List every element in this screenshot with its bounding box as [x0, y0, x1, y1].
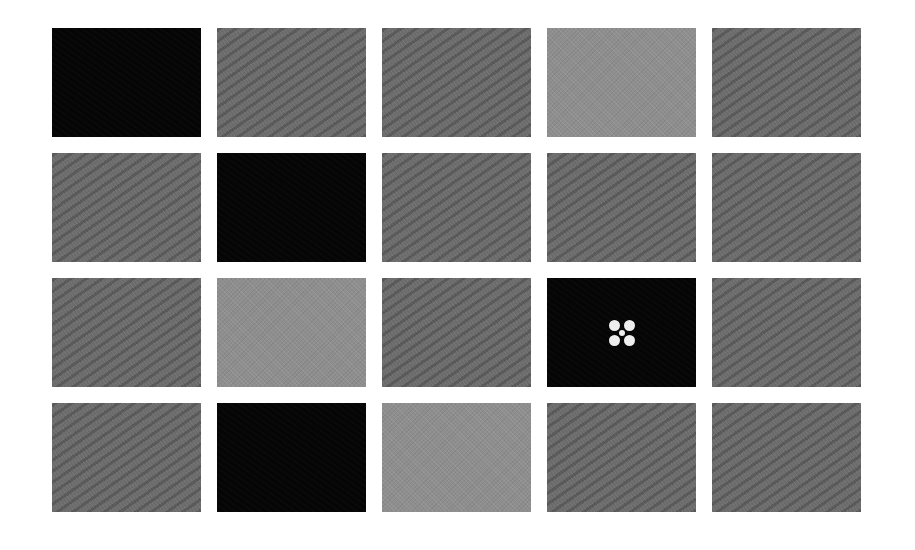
tile-r4-c4[interactable] [547, 403, 696, 512]
tile-r3-c3[interactable] [382, 278, 531, 387]
tile-r3-c5[interactable] [712, 278, 861, 387]
tile-r2-c4[interactable] [547, 153, 696, 262]
target-dot-bottom-right [624, 335, 635, 346]
target-dot-bottom-left [609, 335, 620, 346]
tile-r1-c1[interactable] [52, 28, 201, 137]
tile-r1-c3[interactable] [382, 28, 531, 137]
tile-r3-c1[interactable] [52, 278, 201, 387]
five-dot-target-icon [607, 318, 637, 348]
tile-r1-c2[interactable] [217, 28, 366, 137]
tile-r4-c2[interactable] [217, 403, 366, 512]
tile-r2-c5[interactable] [712, 153, 861, 262]
tile-r3-c4[interactable] [547, 278, 696, 387]
stimulus-grid [52, 28, 861, 512]
target-dot-center [619, 330, 625, 336]
tile-r1-c5[interactable] [712, 28, 861, 137]
tile-r1-c4[interactable] [547, 28, 696, 137]
tile-r2-c1[interactable] [52, 153, 201, 262]
target-dot-top-left [609, 320, 620, 331]
tile-r4-c1[interactable] [52, 403, 201, 512]
target-dot-top-right [624, 320, 635, 331]
tile-r4-c3[interactable] [382, 403, 531, 512]
tile-r4-c5[interactable] [712, 403, 861, 512]
tile-r2-c2[interactable] [217, 153, 366, 262]
tile-r3-c2[interactable] [217, 278, 366, 387]
tile-r2-c3[interactable] [382, 153, 531, 262]
